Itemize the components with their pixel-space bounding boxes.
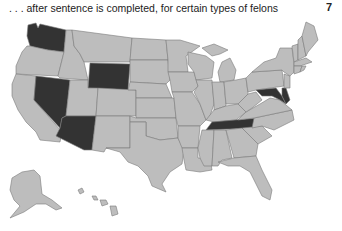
state-hawaii-4 bbox=[110, 206, 118, 216]
state-north-dakota bbox=[130, 38, 168, 60]
state-arizona bbox=[56, 116, 96, 150]
state-hawaii-2 bbox=[92, 196, 98, 200]
state-south-dakota bbox=[130, 60, 170, 84]
us-map bbox=[0, 0, 342, 231]
state-colorado bbox=[96, 88, 136, 116]
state-arkansas bbox=[178, 126, 200, 148]
state-hawaii-3 bbox=[100, 200, 108, 206]
state-new-mexico bbox=[92, 116, 130, 152]
state-hawaii-1 bbox=[78, 188, 84, 194]
state-indiana bbox=[212, 82, 226, 110]
state-new-jersey bbox=[284, 74, 290, 88]
state-florida bbox=[218, 156, 272, 200]
state-iowa bbox=[168, 72, 198, 92]
state-pennsylvania bbox=[246, 70, 284, 92]
state-michigan-lp bbox=[218, 58, 236, 82]
state-michigan-up bbox=[202, 44, 228, 56]
state-alaska bbox=[10, 170, 62, 218]
state-kansas bbox=[136, 98, 176, 118]
state-wyoming bbox=[88, 63, 130, 90]
